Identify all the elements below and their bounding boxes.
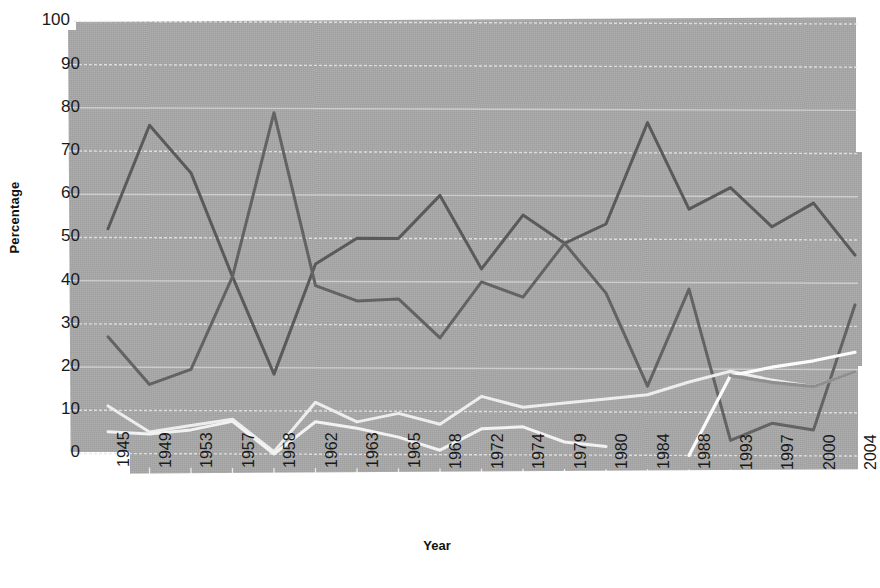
y-tick-label-40: 40 xyxy=(40,270,80,290)
x-tick-label-1980: 1980 xyxy=(613,434,631,470)
x-tick-label-1968: 1968 xyxy=(447,433,465,469)
gridline-100 xyxy=(74,21,858,24)
x-tick-label-1957: 1957 xyxy=(240,432,258,468)
y-tick-label-70: 70 xyxy=(40,140,80,160)
x-tick-label-1945: 1945 xyxy=(115,432,133,468)
y-tick-label-20: 20 xyxy=(40,356,80,376)
y-axis-title: Percentage xyxy=(7,181,22,253)
x-tick-label-1984: 1984 xyxy=(655,434,673,470)
x-tick-label-1979: 1979 xyxy=(572,433,590,469)
x-axis-title: Year xyxy=(0,538,874,553)
x-tick-label-1963: 1963 xyxy=(364,433,382,469)
y-tick-label-10: 10 xyxy=(40,399,80,419)
x-tick-label-1972: 1972 xyxy=(489,433,507,469)
x-tick-label-1965: 1965 xyxy=(406,433,424,469)
gridline-40 xyxy=(74,281,858,284)
x-tick-label-2000: 2000 xyxy=(821,434,839,470)
gridline-70 xyxy=(74,151,858,154)
y-tick-label-90: 90 xyxy=(40,54,80,74)
x-tick-label-1997: 1997 xyxy=(779,434,797,470)
x-tick-label-1988: 1988 xyxy=(696,434,714,470)
x-tick-label-1974: 1974 xyxy=(530,433,548,469)
x-tick-label-1958: 1958 xyxy=(281,432,299,468)
x-tick-label-1953: 1953 xyxy=(198,432,216,468)
gridline-10 xyxy=(74,410,858,413)
series-line-series-dark-a xyxy=(108,123,855,375)
y-tick-label-50: 50 xyxy=(40,226,80,246)
x-tick-label-2004: 2004 xyxy=(862,434,880,470)
gridline-80 xyxy=(74,108,858,111)
gridline-90 xyxy=(74,65,858,68)
x-tick-label-1993: 1993 xyxy=(738,434,756,470)
y-tick-label-100: 100 xyxy=(30,10,70,30)
x-tick-label-1949: 1949 xyxy=(157,432,175,468)
y-tick-label-0: 0 xyxy=(40,442,80,462)
y-tick-label-30: 30 xyxy=(40,313,80,333)
y-tick-label-80: 80 xyxy=(40,97,80,117)
gridline-30 xyxy=(74,324,858,327)
x-tick-label-1962: 1962 xyxy=(323,433,341,469)
data-series xyxy=(108,113,855,456)
y-tick-label-60: 60 xyxy=(40,183,80,203)
series-line-series-dark-b xyxy=(108,113,855,441)
